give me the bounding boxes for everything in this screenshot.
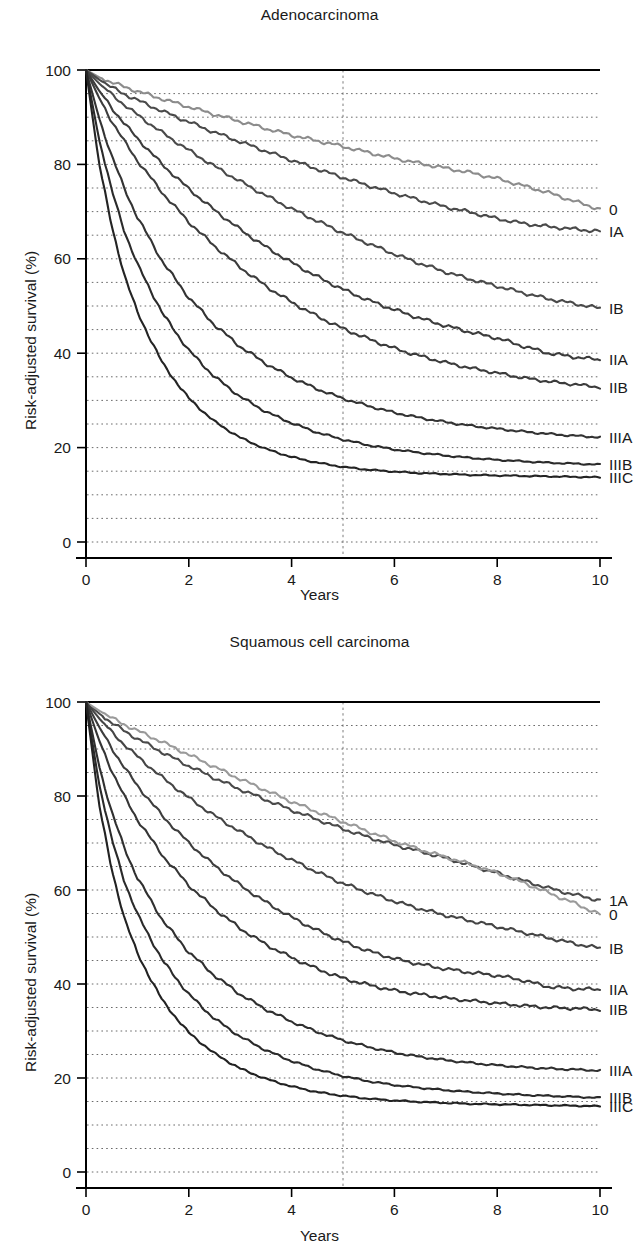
- series-label-stage-0: 0: [609, 906, 618, 923]
- y-tick-label: 20: [54, 1070, 72, 1087]
- y-tick-label: 0: [62, 534, 71, 551]
- series-label-stage-0: 0: [609, 201, 618, 218]
- x-tick-label: 10: [591, 571, 609, 588]
- survival-curve-stage-IIIA: [86, 70, 600, 438]
- series-label-stage-IB: IB: [609, 940, 624, 957]
- panel-adenocarcinoma: Adenocarcinoma Risk-adjusted survival (%…: [0, 0, 639, 627]
- survival-curves-figure: Adenocarcinoma Risk-adjusted survival (%…: [0, 0, 639, 1253]
- y-tick-label: 100: [45, 62, 71, 79]
- x-tick-label: 8: [493, 1201, 502, 1218]
- series-label-stage-IIB: IIB: [609, 379, 628, 396]
- series-label-stage-IB: IB: [609, 300, 624, 317]
- x-tick-label: 6: [390, 571, 399, 588]
- panel-squamous-cell-carcinoma: Squamous cell carcinoma Risk-adjusted su…: [0, 627, 639, 1253]
- series-label-stage-IIA: IIA: [609, 351, 629, 368]
- series-label-stage-IIA: IIA: [609, 981, 629, 998]
- x-tick-label: 2: [184, 1201, 193, 1218]
- y-tick-label: 60: [54, 882, 72, 899]
- y-tick-label: 80: [54, 788, 72, 805]
- series-label-stage-IIIA: IIIA: [609, 429, 633, 446]
- y-tick-label: 60: [54, 250, 72, 267]
- y-tick-label: 40: [54, 345, 72, 362]
- x-tick-label: 10: [591, 1201, 609, 1218]
- series-label-stage-IIIA: IIIA: [609, 1062, 633, 1079]
- y-tick-label: 80: [54, 156, 72, 173]
- y-tick-label: 100: [45, 694, 71, 711]
- plot-area-adenocarcinoma: 02040608010002468100IAIBIIAIIBIIIAIIIBII…: [0, 0, 639, 627]
- x-tick-label: 6: [390, 1201, 399, 1218]
- plot-area-squamous-cell-carcinoma: 02040608010002468101A0IBIIAIIBIIIAIIIBII…: [0, 627, 639, 1253]
- series-label-stage-IA: IA: [609, 223, 624, 240]
- series-label-stage-IIIC: IIIC: [609, 1098, 633, 1115]
- x-tick-label: 0: [82, 1201, 91, 1218]
- series-label-stage-IIIC: IIIC: [609, 469, 633, 486]
- y-tick-label: 20: [54, 439, 72, 456]
- x-tick-label: 4: [287, 571, 296, 588]
- x-tick-label: 4: [287, 1201, 296, 1218]
- y-tick-label: 40: [54, 976, 72, 993]
- x-tick-label: 8: [493, 571, 502, 588]
- x-tick-label: 0: [82, 571, 91, 588]
- x-tick-label: 2: [184, 571, 193, 588]
- y-tick-label: 0: [62, 1164, 71, 1181]
- series-label-stage-IIB: IIB: [609, 1001, 628, 1018]
- survival-curve-stage-IIA: [86, 702, 600, 990]
